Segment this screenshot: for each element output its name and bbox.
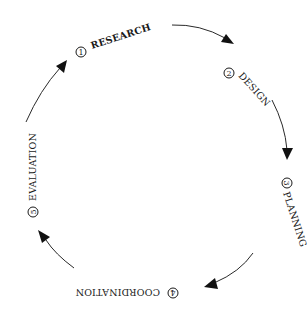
step-research: 1 RESEARCH <box>76 21 152 57</box>
step-label: PLANNING <box>281 190 308 248</box>
connector-research-to-design <box>172 25 234 44</box>
step-number: 4 <box>170 288 175 297</box>
step-number: 1 <box>78 48 83 57</box>
step-label: DESIGN <box>237 70 273 109</box>
step-label: EVALUATION <box>27 133 38 201</box>
step-label: COORDINATION <box>75 287 160 298</box>
connector-evaluation-to-research <box>26 60 67 122</box>
step-coordination: 4 COORDINATION <box>75 287 178 298</box>
arrowhead-icon <box>38 230 50 243</box>
step-design: 2 DESIGN <box>224 68 273 108</box>
step-number: 2 <box>226 69 231 78</box>
arrowhead-icon <box>204 278 218 289</box>
step-planning: 3 PLANNING <box>281 178 308 248</box>
cycle-diagram: 1 RESEARCH 2 DESIGN 3 PLANNING 4 COORDIN… <box>0 0 308 314</box>
step-label: RESEARCH <box>89 21 152 51</box>
step-number: 3 <box>282 180 291 185</box>
connector-design-to-planning <box>272 100 293 160</box>
arrowhead-icon <box>221 34 234 44</box>
step-evaluation: 5 EVALUATION <box>27 133 38 217</box>
step-number: 5 <box>29 209 38 214</box>
connector-coordination-to-evaluation <box>38 230 74 268</box>
arrowhead-icon <box>282 148 293 160</box>
connector-planning-to-coordination <box>204 253 253 289</box>
